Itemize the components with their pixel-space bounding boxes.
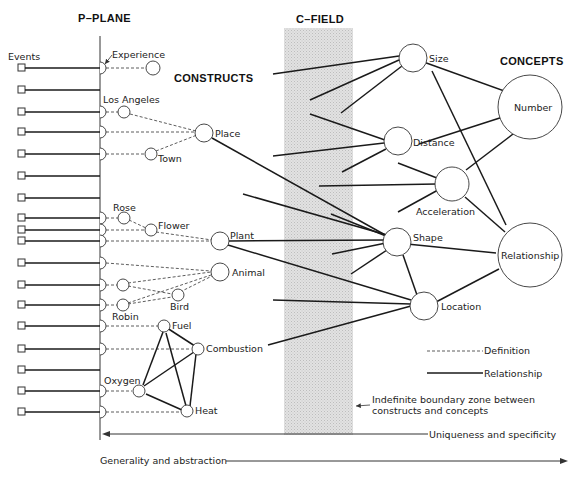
experience-pointer-icon xyxy=(105,55,112,64)
event-row xyxy=(18,257,106,269)
label-bird: Bird xyxy=(170,301,189,312)
legend-definition-label: Definition xyxy=(484,345,530,356)
label-number: Number xyxy=(514,102,552,113)
node-distance[interactable] xyxy=(384,127,412,155)
event-box[interactable] xyxy=(18,259,25,266)
event-row xyxy=(18,106,106,118)
event-box[interactable] xyxy=(18,345,25,352)
event-box[interactable] xyxy=(18,150,25,157)
generality-axis: Generality and abstraction xyxy=(100,455,568,466)
node-shape[interactable] xyxy=(383,228,411,256)
node-fuel[interactable] xyxy=(158,320,170,332)
label-place: Place xyxy=(215,128,240,139)
boundary-text-2: constructs and concepts xyxy=(372,405,488,416)
label-plant: Plant xyxy=(230,230,254,241)
event-box[interactable] xyxy=(18,194,25,201)
label-fuel: Fuel xyxy=(172,320,191,331)
event-box[interactable] xyxy=(18,301,25,308)
generality-label: Generality and abstraction xyxy=(100,455,227,466)
right-arrowhead-icon xyxy=(560,458,568,464)
construct-nodes xyxy=(117,61,229,417)
event-row xyxy=(18,320,106,332)
node-plant[interactable] xyxy=(211,232,229,250)
concept-nodes xyxy=(383,44,562,320)
label-experience: Experience xyxy=(112,49,165,60)
event-row xyxy=(18,86,100,93)
node-combustion[interactable] xyxy=(192,343,204,355)
left-arrowhead-icon xyxy=(102,431,110,437)
node-bird[interactable] xyxy=(172,289,184,301)
event-box[interactable] xyxy=(18,226,25,233)
label-rose: Rose xyxy=(113,202,136,213)
label-distance: Distance xyxy=(413,137,455,148)
label-animal: Animal xyxy=(232,267,265,278)
event-box[interactable] xyxy=(18,64,25,71)
node-oxygen[interactable] xyxy=(133,385,145,397)
node-rose[interactable] xyxy=(118,212,130,224)
construct-concept-diagram: P–PLANE C–FIELD CONSTRUCTS CONCEPTS Even… xyxy=(0,0,577,481)
node-size[interactable] xyxy=(399,44,427,72)
node-acceleration[interactable] xyxy=(435,167,469,201)
boundary-annotation: Indefinite boundary zone between constru… xyxy=(356,394,535,416)
node-animal[interactable] xyxy=(211,263,229,281)
event-row xyxy=(18,172,100,179)
node-place[interactable] xyxy=(195,124,213,142)
event-row xyxy=(18,224,106,236)
event-row xyxy=(18,148,106,160)
label-oxygen: Oxygen xyxy=(104,375,141,386)
event-row xyxy=(18,194,100,201)
perception-arc xyxy=(100,299,106,311)
label-size: Size xyxy=(429,53,449,64)
label-los-angeles: Los Angeles xyxy=(103,94,160,105)
event-row xyxy=(18,212,106,224)
node-flower[interactable] xyxy=(145,224,157,236)
event-box[interactable] xyxy=(18,172,25,179)
node-robin[interactable] xyxy=(117,299,129,311)
perception-arc xyxy=(100,406,106,418)
event-row xyxy=(18,385,106,397)
node-bird-parent[interactable] xyxy=(117,279,129,291)
boundary-pointer-icon xyxy=(356,405,370,406)
node-experience[interactable] xyxy=(146,61,160,75)
definition-links xyxy=(106,68,212,412)
event-row xyxy=(18,279,106,291)
label-robin: Robin xyxy=(112,311,139,322)
c-field-header: C–FIELD xyxy=(296,13,344,25)
event-box[interactable] xyxy=(18,86,25,93)
label-relationship: Relationship xyxy=(501,250,559,261)
perception-arc xyxy=(100,235,106,247)
event-box[interactable] xyxy=(18,237,25,244)
event-box[interactable] xyxy=(18,108,25,115)
event-row xyxy=(18,366,100,373)
construct-labels: Experience Los Angeles Place Town Rose F… xyxy=(103,49,265,416)
perception-arc xyxy=(100,212,106,224)
node-town[interactable] xyxy=(145,148,157,160)
label-town: Town xyxy=(157,153,182,164)
perception-arc xyxy=(100,148,106,160)
event-box[interactable] xyxy=(18,214,25,221)
event-row xyxy=(18,126,106,138)
legend: Definition Relationship xyxy=(427,345,542,379)
node-heat[interactable] xyxy=(181,405,193,417)
label-location: Location xyxy=(441,301,481,312)
perception-arc xyxy=(100,106,106,118)
event-box[interactable] xyxy=(18,366,25,373)
event-box[interactable] xyxy=(18,408,25,415)
label-flower: Flower xyxy=(158,220,190,231)
event-row xyxy=(18,406,106,418)
c-field-zone xyxy=(284,28,353,435)
event-box[interactable] xyxy=(18,281,25,288)
node-location[interactable] xyxy=(410,292,438,320)
perception-arc xyxy=(100,257,106,269)
event-rows xyxy=(18,62,106,418)
perception-arc xyxy=(100,224,106,236)
uniqueness-label: Uniqueness and specificity xyxy=(429,429,556,440)
event-box[interactable] xyxy=(18,128,25,135)
perception-arc xyxy=(100,343,106,355)
label-shape: Shape xyxy=(413,232,443,243)
event-box[interactable] xyxy=(18,387,25,394)
event-box[interactable] xyxy=(18,322,25,329)
node-los-angeles[interactable] xyxy=(118,106,130,118)
perception-arc xyxy=(100,279,106,291)
perception-arc xyxy=(100,320,106,332)
